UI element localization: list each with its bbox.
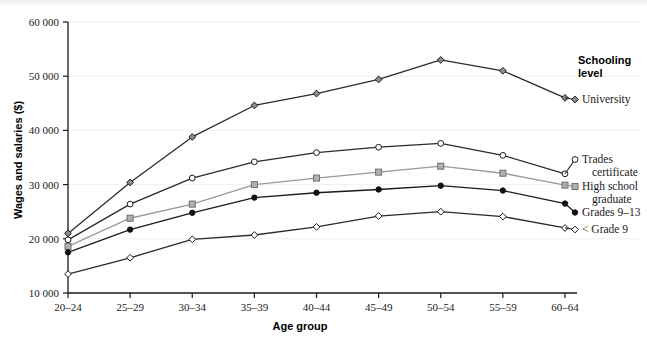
series-line bbox=[68, 212, 565, 274]
legend-item-4[interactable]: Grades 9–13 bbox=[565, 204, 641, 218]
data-point-marker bbox=[500, 152, 506, 158]
legend-item-5[interactable]: < Grade 9 bbox=[565, 223, 628, 235]
y-axis-title: Wages and salaries ($) bbox=[12, 101, 24, 220]
data-point-marker bbox=[251, 159, 257, 165]
data-point-marker bbox=[438, 141, 444, 147]
data-point-marker bbox=[65, 271, 72, 278]
data-point-marker bbox=[437, 208, 444, 215]
data-point-marker bbox=[251, 232, 258, 239]
x-tick-label: 20–24 bbox=[54, 301, 82, 313]
data-point-marker bbox=[376, 169, 382, 175]
legend-label: Grades 9–13 bbox=[582, 206, 641, 218]
data-point-marker bbox=[65, 237, 71, 243]
data-point-marker bbox=[251, 102, 258, 109]
x-tick-label: 35–39 bbox=[241, 301, 269, 313]
data-point-marker bbox=[313, 90, 320, 97]
data-point-marker bbox=[314, 190, 319, 195]
data-point-marker bbox=[376, 187, 381, 192]
legend-item-1[interactable]: University bbox=[565, 93, 631, 106]
data-point-marker bbox=[65, 250, 70, 255]
series-1 bbox=[65, 57, 569, 237]
y-tick-label: 50 000 bbox=[29, 70, 60, 82]
data-point-marker bbox=[499, 67, 506, 74]
data-point-marker bbox=[313, 223, 320, 230]
legend-title-line2: level bbox=[578, 67, 602, 79]
data-point-marker bbox=[65, 243, 71, 249]
data-point-marker bbox=[500, 188, 505, 193]
x-tick-label: 55–59 bbox=[489, 301, 517, 313]
x-axis-title: Age group bbox=[273, 320, 328, 332]
series-4 bbox=[65, 183, 567, 255]
series-line bbox=[68, 60, 565, 233]
data-point-marker bbox=[437, 57, 444, 64]
data-point-marker bbox=[314, 175, 320, 181]
legend-label-line2: graduate bbox=[592, 193, 632, 206]
x-axis: 20–2425–2930–3435–3940–4445–4950–5455–59… bbox=[54, 293, 579, 313]
legend-item-3[interactable]: High schoolgraduate bbox=[565, 180, 638, 206]
data-point-marker bbox=[190, 210, 195, 215]
legend-label: University bbox=[582, 93, 631, 106]
legend-item-2[interactable]: Tradescertificate bbox=[565, 153, 638, 178]
data-point-marker bbox=[127, 254, 134, 261]
data-point-marker bbox=[127, 227, 132, 232]
legend-label: < Grade 9 bbox=[582, 223, 628, 235]
data-point-marker bbox=[127, 215, 133, 221]
legend-label-line2: certificate bbox=[592, 166, 638, 178]
x-tick-label: 25–29 bbox=[116, 301, 144, 313]
legend-label: High school bbox=[582, 180, 638, 193]
legend-title-line1: Schooling bbox=[578, 54, 631, 66]
data-point-marker bbox=[189, 236, 196, 243]
data-point-marker bbox=[252, 195, 257, 200]
legend: SchoolinglevelUniversityTradescertificat… bbox=[565, 54, 641, 235]
data-point-marker bbox=[375, 213, 382, 220]
data-point-marker bbox=[572, 184, 578, 190]
data-point-marker bbox=[572, 157, 578, 163]
data-point-marker bbox=[500, 170, 506, 176]
data-point-marker bbox=[375, 76, 382, 83]
series-3 bbox=[65, 163, 568, 249]
series-lines bbox=[65, 57, 569, 278]
y-tick-label: 60 000 bbox=[29, 16, 60, 28]
data-point-marker bbox=[251, 182, 257, 188]
data-point-marker bbox=[189, 201, 195, 207]
x-tick-label: 60–64 bbox=[551, 301, 579, 313]
data-point-marker bbox=[499, 213, 506, 220]
data-point-marker bbox=[127, 201, 133, 207]
chart-svg: 10 00020 00030 00040 00050 00060 000 20–… bbox=[0, 0, 647, 349]
data-point-marker bbox=[438, 183, 443, 188]
x-tick-label: 45–49 bbox=[365, 301, 393, 313]
y-tick-label: 20 000 bbox=[29, 233, 60, 245]
data-point-marker bbox=[572, 210, 577, 215]
y-axis: 10 00020 00030 00040 00050 00060 000 bbox=[29, 16, 68, 299]
x-tick-label: 50–54 bbox=[427, 301, 455, 313]
x-tick-label: 40–44 bbox=[303, 301, 331, 313]
y-tick-label: 30 000 bbox=[29, 179, 60, 191]
data-point-marker bbox=[572, 96, 579, 103]
series-5 bbox=[65, 208, 569, 277]
data-point-marker bbox=[189, 175, 195, 181]
data-point-marker bbox=[314, 150, 320, 156]
wages-by-age-and-schooling-chart: 10 00020 00030 00040 00050 00060 000 20–… bbox=[0, 0, 647, 349]
data-point-marker bbox=[438, 163, 444, 169]
legend-label: Trades bbox=[582, 153, 613, 165]
data-point-marker bbox=[572, 226, 579, 233]
y-tick-label: 10 000 bbox=[29, 287, 60, 299]
y-tick-label: 40 000 bbox=[29, 124, 60, 136]
data-point-marker bbox=[376, 144, 382, 150]
gridlines bbox=[68, 22, 640, 239]
x-tick-label: 30–34 bbox=[179, 301, 207, 313]
